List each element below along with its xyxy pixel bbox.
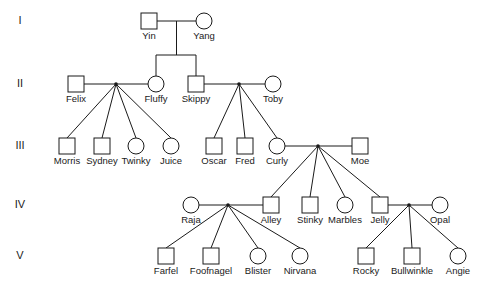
child-line-oscar <box>214 84 239 138</box>
sibship-node-u6 <box>407 203 411 207</box>
person-symbol-curly[interactable] <box>269 138 285 154</box>
person-name-juice: Juice <box>160 155 182 166</box>
child-line-marbles <box>318 146 345 197</box>
person-name-blister: Blister <box>245 265 271 276</box>
person-symbol-felix[interactable] <box>68 76 84 92</box>
generation-label-v: V <box>16 249 24 261</box>
person-symbol-sydney[interactable] <box>94 138 110 154</box>
generation-label-i: I <box>18 14 21 26</box>
person-symbol-twinky[interactable] <box>128 138 144 154</box>
child-line-jelly <box>318 146 380 197</box>
person-symbol-marbles[interactable] <box>337 197 353 213</box>
person-symbol-morris[interactable] <box>59 138 75 154</box>
person-symbol-raja[interactable] <box>183 197 199 213</box>
generation-label-iii: III <box>15 139 24 151</box>
person-symbol-oscar[interactable] <box>206 138 222 154</box>
child-line-bullwinkle <box>409 205 412 248</box>
person-name-felix: Felix <box>66 93 86 104</box>
person-name-alley: Alley <box>261 214 282 225</box>
person-name-marbles: Marbles <box>328 214 362 225</box>
person-name-curly: Curly <box>266 155 288 166</box>
person-name-twinky: Twinky <box>121 155 150 166</box>
person-name-nirvana: Nirvana <box>284 265 317 276</box>
generation-label-iv: IV <box>15 198 26 210</box>
generation-labels: IIIIIIIVV <box>15 14 26 261</box>
person-symbol-juice[interactable] <box>163 138 179 154</box>
person-symbols <box>59 13 466 264</box>
pedigree-chart: YinYangFelixFluffySkippyTobyMorrisSydney… <box>0 0 491 295</box>
generation-label-ii: II <box>17 77 23 89</box>
person-symbol-farfel[interactable] <box>158 248 174 264</box>
person-name-oscar: Oscar <box>201 155 226 166</box>
person-symbol-opal[interactable] <box>432 197 448 213</box>
sibship-node-u4 <box>316 144 320 148</box>
person-symbol-jelly[interactable] <box>372 197 388 213</box>
person-name-bullwinkle: Bullwinkle <box>391 265 433 276</box>
person-symbol-stinky[interactable] <box>302 197 318 213</box>
person-symbol-alley[interactable] <box>263 197 279 213</box>
person-name-angie: Angie <box>446 265 470 276</box>
person-name-moe: Moe <box>351 155 369 166</box>
sibship-node-u3 <box>237 82 241 86</box>
person-symbol-moe[interactable] <box>352 138 368 154</box>
person-symbol-angie[interactable] <box>450 248 466 264</box>
child-line-twinky <box>116 84 136 138</box>
person-name-rocky: Rocky <box>353 265 380 276</box>
person-name-opal: Opal <box>430 214 450 225</box>
person-name-fred: Fred <box>235 155 255 166</box>
pedigree-diagram: YinYangFelixFluffySkippyTobyMorrisSydney… <box>0 0 491 295</box>
person-name-morris: Morris <box>54 155 81 166</box>
person-symbol-yin[interactable] <box>141 13 157 29</box>
person-symbol-bullwinkle[interactable] <box>404 248 420 264</box>
person-name-farfel: Farfel <box>154 265 178 276</box>
child-line-blister <box>228 205 258 248</box>
person-name-foofnagel: Foofnagel <box>190 265 232 276</box>
person-name-skippy: Skippy <box>182 93 211 104</box>
person-name-toby: Toby <box>263 93 283 104</box>
sibship-node-u2 <box>114 82 118 86</box>
person-name-fluffy: Fluffy <box>144 93 167 104</box>
person-symbol-skippy[interactable] <box>188 76 204 92</box>
person-name-stinky: Stinky <box>297 214 323 225</box>
person-symbol-toby[interactable] <box>265 76 281 92</box>
person-name-raja: Raja <box>181 214 201 225</box>
person-name-jelly: Jelly <box>370 214 389 225</box>
person-symbol-yang[interactable] <box>196 13 212 29</box>
person-name-yang: Yang <box>193 30 214 41</box>
person-symbol-foofnagel[interactable] <box>203 248 219 264</box>
person-name-sydney: Sydney <box>86 155 118 166</box>
sibship-node-u5 <box>226 203 230 207</box>
person-symbol-blister[interactable] <box>250 248 266 264</box>
child-line-angie <box>409 205 458 248</box>
child-line-farfel <box>166 205 228 248</box>
person-name-yin: Yin <box>142 30 155 41</box>
person-symbol-fluffy[interactable] <box>148 76 164 92</box>
person-labels: YinYangFelixFluffySkippyTobyMorrisSydney… <box>54 30 470 276</box>
person-symbol-rocky[interactable] <box>358 248 374 264</box>
person-symbol-fred[interactable] <box>237 138 253 154</box>
person-symbol-nirvana[interactable] <box>292 248 308 264</box>
